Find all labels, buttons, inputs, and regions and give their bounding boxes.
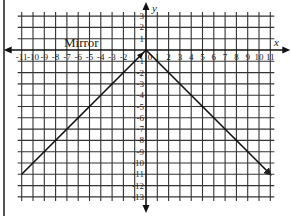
x-tick-label: 3	[178, 52, 183, 62]
y-axis-arrow-up-icon	[143, 2, 150, 10]
x-tick-label: 11	[266, 52, 275, 62]
y-tick-label: -11	[132, 169, 144, 179]
x-tick-label: -9	[41, 52, 49, 62]
y-tick-label: 3	[140, 11, 145, 21]
y-tick-label: -4	[137, 90, 145, 100]
x-tick-label: 9	[245, 52, 250, 62]
y-tick-label: -3	[137, 79, 145, 89]
x-tick-label: -8	[52, 52, 60, 62]
x-tick-label: -3	[108, 52, 116, 62]
y-tick-label: -2	[137, 68, 145, 78]
x-axis-arrow-left-icon	[4, 47, 12, 54]
y-tick-label: -7	[137, 124, 145, 134]
y-tick-label: -13	[132, 192, 144, 202]
x-tick-label: 10	[255, 52, 265, 62]
y-tick-label: -5	[137, 102, 145, 112]
mirror-label: Mirror	[64, 35, 99, 50]
x-tick-label: 6	[212, 52, 217, 62]
x-tick-label: -6	[74, 52, 82, 62]
data-ray	[146, 50, 270, 174]
x-tick-label: -10	[27, 52, 39, 62]
x-tick-label: -11	[16, 52, 28, 62]
x-tick-label: 2	[166, 52, 171, 62]
y-axis-arrow-down-icon	[143, 205, 150, 213]
x-tick-label: -5	[86, 52, 94, 62]
data-ray	[22, 50, 146, 174]
y-tick-label: -8	[137, 135, 145, 145]
x-tick-label: -7	[63, 52, 71, 62]
y-tick-label: -10	[132, 158, 144, 168]
x-tick-label: 7	[223, 52, 228, 62]
x-tick-label: -4	[97, 52, 105, 62]
y-tick-label: 1	[140, 34, 145, 44]
y-axis-label: y	[151, 2, 157, 14]
x-tick-label: 5	[200, 52, 205, 62]
x-tick-label: 8	[234, 52, 239, 62]
x-tick-label: 4	[189, 52, 194, 62]
y-tick-label: 2	[140, 22, 145, 32]
y-tick-label: -6	[137, 113, 145, 123]
y-tick-label: -9	[137, 147, 145, 157]
x-axis-label: x	[273, 36, 279, 48]
coordinate-grid: -11-10-9-8-7-6-5-4-3-201234567891011321-…	[0, 0, 291, 216]
coordinate-plane-figure: -11-10-9-8-7-6-5-4-3-201234567891011321-…	[0, 0, 291, 216]
x-tick-label: -2	[120, 52, 128, 62]
y-tick-label: -12	[132, 181, 144, 191]
x-axis-arrow-right-icon	[282, 47, 290, 54]
